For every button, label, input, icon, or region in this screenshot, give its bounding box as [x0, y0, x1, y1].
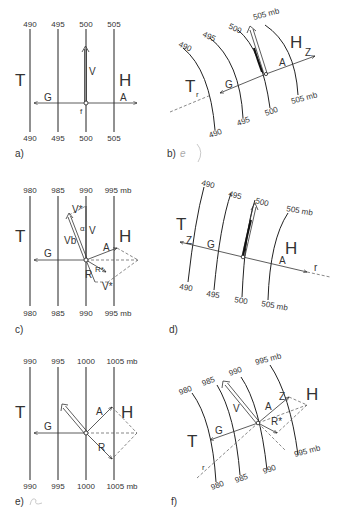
isobar-label: 500 — [79, 20, 93, 29]
panel-label: c) — [15, 324, 23, 335]
a-label: A — [103, 242, 110, 253]
isobar-label: 505 — [107, 134, 121, 143]
r-star-label: R* — [95, 265, 104, 274]
v-label: V — [89, 66, 96, 77]
isobar-label: 980 — [23, 186, 37, 195]
r-label: R — [85, 269, 92, 280]
coriolis-arrow — [86, 248, 117, 260]
isobar-label: 1005 mb — [106, 357, 138, 366]
isobars — [30, 29, 114, 132]
high-pressure-label: H — [121, 403, 133, 422]
isobar-label: 505 mb — [252, 6, 281, 22]
isobar-label: 980 — [178, 384, 194, 397]
parallelogram-edge — [289, 397, 307, 405]
g-label: G — [207, 239, 215, 250]
parallelogram-edge — [117, 248, 138, 260]
isobar-label: 505 — [107, 20, 121, 29]
z-label: Z — [279, 391, 285, 402]
v-star-top-label: V* — [72, 204, 83, 215]
isobar-label: 980 — [23, 309, 37, 318]
panel-label: f) — [171, 496, 177, 507]
g-label: G — [44, 421, 52, 432]
vb-label: Vb — [64, 235, 77, 246]
handwritten-mark — [197, 144, 201, 162]
isobar-label: 980 — [210, 479, 226, 492]
isobar-label: 495 — [51, 134, 65, 143]
isobar-label: 1000 — [77, 482, 95, 491]
isobar-label: 985 — [201, 375, 217, 388]
isobar-label: 490 — [177, 40, 193, 54]
isobar-label: 995 mb — [254, 351, 283, 367]
isobar-label: 490 — [200, 178, 216, 190]
g-label: G — [225, 79, 233, 90]
isobar-label: 995 — [51, 357, 65, 366]
isobars — [188, 187, 288, 300]
isobars — [183, 25, 298, 130]
high-pressure-label: H — [290, 33, 302, 52]
a-label: A — [265, 401, 272, 412]
a-label: A — [279, 57, 286, 68]
panel-c: 980 985 990 995 mb 980 985 990 995 mb T … — [15, 186, 138, 335]
isobar-label: 495 — [227, 189, 243, 201]
panel-label: d) — [169, 324, 178, 335]
isobar-label: 505 mb — [286, 204, 314, 218]
low-pressure-label: T — [185, 77, 195, 96]
isobar-label: 990 — [23, 357, 37, 366]
a-label: A — [96, 406, 103, 417]
isobar-label: 995 mb — [105, 186, 132, 195]
wind-vector-v — [222, 381, 260, 424]
coriolis-arrow — [243, 257, 307, 272]
v-label: V — [89, 225, 96, 236]
isobar-label: 505 mb — [261, 299, 289, 313]
isobar-label: 500 — [227, 22, 243, 36]
isobar-label: 995 mb — [293, 443, 322, 459]
figure-canvas: 490 495 500 505 490 495 500 505 T H V G … — [0, 0, 339, 519]
v-star-bottom-label: V* — [102, 281, 113, 292]
high-pressure-label: H — [285, 239, 297, 258]
g-label: G — [44, 248, 52, 259]
radius-line — [307, 272, 330, 277]
isobar-label: 490 — [23, 134, 37, 143]
isobar-label: 500 — [264, 105, 280, 118]
isobar-label: 990 — [228, 365, 244, 378]
low-pressure-label: T — [176, 215, 186, 234]
parallelogram-edge — [112, 433, 137, 459]
isobar-label: 495 — [206, 289, 221, 300]
r-label: r — [314, 262, 318, 273]
high-pressure-label: H — [119, 71, 131, 90]
isobar-label: 490 — [179, 282, 194, 293]
r-label: R — [98, 442, 105, 453]
low-pressure-label: T — [15, 227, 25, 246]
r-label: r — [196, 90, 199, 99]
air-parcel-marker — [84, 258, 88, 262]
r-star-label: R* — [271, 416, 282, 427]
isobar-label: 990 — [262, 463, 278, 476]
isobar-label: 1005 mb — [106, 482, 138, 491]
isobar-label: 495 — [51, 20, 65, 29]
air-parcel-marker — [84, 101, 88, 105]
z-label: Z — [305, 47, 311, 58]
panel-label: b) — [167, 148, 176, 159]
isobar-label: 495 — [201, 30, 217, 44]
f-label: f — [80, 107, 83, 116]
panel-f: 980 985 990 995 mb 980 985 990 995 mb T … — [171, 351, 322, 507]
air-parcel-marker — [264, 72, 267, 75]
low-pressure-label: T — [187, 432, 197, 451]
handwritten-mark — [30, 499, 42, 505]
isobars — [30, 367, 114, 480]
isobar-label: 985 — [234, 472, 250, 485]
high-pressure-label: H — [306, 385, 318, 404]
a-label: A — [279, 255, 286, 266]
air-parcel-marker — [256, 421, 260, 425]
low-pressure-label: T — [15, 403, 25, 422]
panel-a: 490 495 500 505 490 495 500 505 T H V G … — [15, 20, 137, 159]
isobar-label: 1000 — [77, 357, 95, 366]
isobar-label: 490 — [23, 20, 37, 29]
wind-vector-v — [61, 404, 88, 434]
v-label: V — [233, 403, 240, 414]
isobar-label: 500 — [79, 134, 93, 143]
alpha-label: α — [80, 224, 85, 233]
panel-b: 490 495 500 505 mb 490 495 500 505 mb T … — [167, 6, 319, 162]
panel-d: 490 495 500 505 mb 490 495 500 505 mb T … — [169, 178, 330, 335]
isobar-label: 985 — [51, 309, 65, 318]
